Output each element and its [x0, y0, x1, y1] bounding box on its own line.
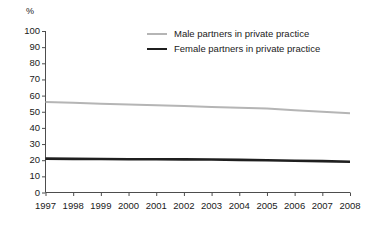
y-axis-tick-label: 60	[14, 91, 40, 101]
y-axis-tick-label: 100	[14, 26, 40, 36]
line-chart: % 0102030405060708090100 199719981999200…	[0, 0, 365, 225]
legend-item-female: Female partners in private practice	[147, 41, 320, 56]
legend-item-male: Male partners in private practice	[147, 26, 320, 41]
y-axis-ticks	[42, 32, 46, 194]
y-axis-tick-label: 10	[14, 171, 40, 181]
x-axis-tick-label: 2008	[333, 200, 365, 211]
y-axis-tick-label: 80	[14, 58, 40, 68]
legend-label-male: Male partners in private practice	[174, 28, 309, 39]
data-series-group	[46, 102, 351, 162]
legend-label-female: Female partners in private practice	[174, 43, 320, 54]
y-axis-tick-label: 40	[14, 123, 40, 133]
series-line	[46, 159, 351, 162]
y-axis-tick-label: 70	[14, 74, 40, 84]
chart-legend: Male partners in private practice Female…	[147, 26, 320, 56]
y-axis-tick-label: 30	[14, 139, 40, 149]
y-axis-tick-label: 0	[14, 188, 40, 198]
legend-line-swatch-female-icon	[147, 48, 167, 50]
series-line	[46, 102, 351, 113]
y-axis-tick-label: 50	[14, 107, 40, 117]
y-axis-tick-label: 90	[14, 42, 40, 52]
x-axis-ticks	[46, 193, 351, 197]
legend-line-swatch-male-icon	[147, 33, 167, 35]
y-axis-tick-label: 20	[14, 155, 40, 165]
